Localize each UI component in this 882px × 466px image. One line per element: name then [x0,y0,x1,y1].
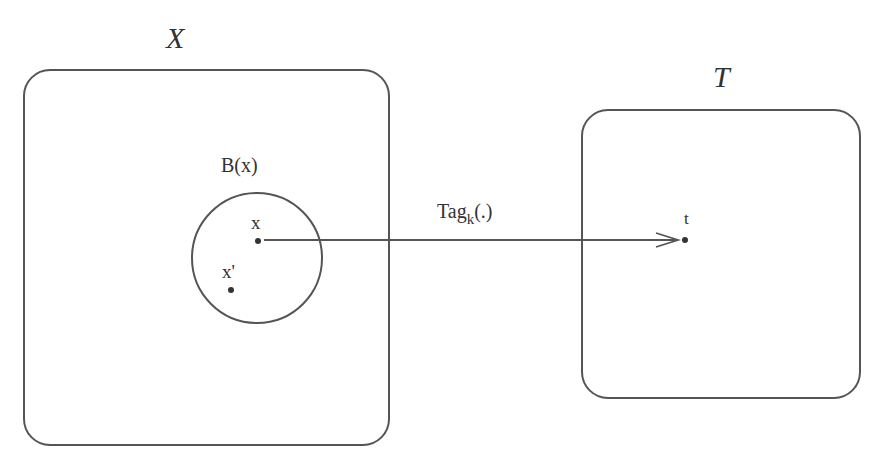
point-x-prime-dot [228,287,234,293]
arrow-label-main: Tag [437,200,467,223]
point-x-dot [255,238,261,244]
set-t-box [582,110,860,398]
arrow-label: Tagk(.) [437,200,493,227]
ball-label: B(x) [221,154,258,177]
tag-arrow: Tagk(.) [264,200,678,247]
tagging-diagram: X T B(x) x x' t Tagk(.) [0,0,882,466]
point-x-prime: x' [222,261,235,293]
arrow-label-suffix: (.) [474,200,492,223]
point-t-dot [682,237,688,243]
set-x-label: X [165,21,186,54]
point-t: t [682,209,689,243]
set-t-label: T [713,60,732,93]
point-t-label: t [684,209,689,228]
point-x-prime-label: x' [222,261,235,282]
set-x-box [24,70,389,445]
point-x: x [251,212,261,244]
point-x-label: x [251,212,261,233]
set-x: X [24,21,389,445]
set-t: T [582,60,860,398]
